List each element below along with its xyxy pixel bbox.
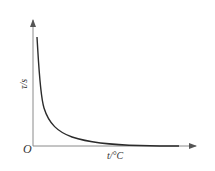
y-axis-label: τ/s (18, 79, 29, 89)
decay-curve (37, 37, 179, 146)
x-axis-label: t/°C (107, 150, 124, 161)
origin-label: O (23, 142, 32, 156)
chart: O t/°C τ/s (0, 0, 215, 171)
